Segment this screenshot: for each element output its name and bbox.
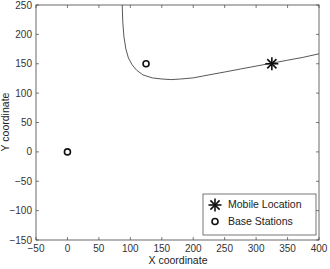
legend-label-base: Base Stations bbox=[228, 215, 293, 227]
x-tick-label: 200 bbox=[185, 243, 202, 254]
x-tick-label: 300 bbox=[248, 243, 265, 254]
x-tick-label: 400 bbox=[311, 243, 328, 254]
y-tick-label: 0 bbox=[26, 146, 32, 157]
x-tick-label: 350 bbox=[279, 243, 296, 254]
legend: Mobile Location Base Stations bbox=[203, 194, 316, 235]
y-tick-label: −100 bbox=[9, 205, 32, 216]
chart: −50050100150200250300350400−150−100−5005… bbox=[0, 0, 330, 269]
legend-label-mobile: Mobile Location bbox=[228, 198, 302, 210]
y-tick-label: 50 bbox=[21, 117, 33, 128]
x-tick-label: 150 bbox=[153, 243, 170, 254]
y-tick-label: 200 bbox=[15, 29, 32, 40]
y-axis-label: Y coordinate bbox=[0, 92, 11, 151]
y-tick-label: −150 bbox=[9, 235, 32, 246]
data-markers bbox=[64, 57, 278, 155]
hyperbola-curve bbox=[122, 5, 319, 80]
x-tick-label: 100 bbox=[122, 243, 139, 254]
y-tick-label: 100 bbox=[15, 88, 32, 99]
y-tick-label: 150 bbox=[15, 58, 32, 69]
x-tick-label: 50 bbox=[93, 243, 105, 254]
asterisk-icon bbox=[209, 199, 222, 212]
x-axis-label: X coordinate bbox=[149, 254, 208, 266]
x-tick-label: 0 bbox=[65, 243, 71, 254]
x-tick-label: 250 bbox=[216, 243, 233, 254]
y-tick-label: −50 bbox=[15, 176, 32, 187]
y-tick-label: 250 bbox=[15, 0, 32, 11]
